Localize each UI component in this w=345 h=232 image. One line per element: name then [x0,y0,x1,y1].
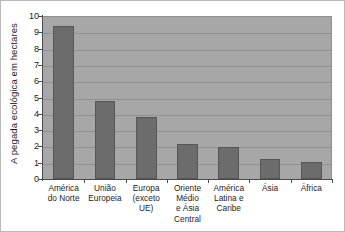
y-axis-tick-labels: 109876543210 [23,11,39,181]
y-axis-tickmark [38,16,42,17]
y-axis-tick-label: 2 [23,142,39,151]
ecological-footprint-bar-chart: A pegada ecológica em hectares 109876543… [0,0,345,232]
x-axis-tickmark [291,180,292,183]
y-axis-tick-label: 6 [23,77,39,86]
y-axis-tick-label: 9 [23,28,39,37]
gridline [43,131,331,132]
y-axis-tickmark [38,32,42,33]
bar [53,26,74,179]
x-axis-category-label: OrienteMédioe ÁsiaCentral [167,183,208,224]
gridline [43,33,331,34]
y-axis-tickmark [38,114,42,115]
y-axis-tickmark [38,179,42,180]
y-axis-tickmark [38,49,42,50]
bar [301,162,322,179]
x-axis-tickmark [167,180,168,183]
gridline [43,82,331,83]
x-axis-tickmark [84,180,85,183]
y-axis-tick-label: 8 [23,44,39,53]
gridline [43,115,331,116]
y-axis-tickmark [38,146,42,147]
x-axis-category-label: Ásia [249,183,290,193]
bar [95,101,116,179]
gridline [43,50,331,51]
plot-area [43,16,332,179]
y-axis-tick-label: 4 [23,109,39,118]
x-axis-tickmark [208,180,209,183]
y-axis-title-text: A pegada ecológica em hectares [8,23,19,164]
bar [136,117,157,179]
x-axis-tickmark [249,180,250,183]
y-axis-tickmark [38,163,42,164]
bar [177,144,198,179]
y-axis-tickmark [38,98,42,99]
y-axis-tick-label: 5 [23,93,39,102]
y-axis-line [42,15,43,181]
x-axis-line [42,179,333,180]
gridline [43,66,331,67]
x-axis-category-labels: Américado NorteUniãoEuropeiaEuropa(excet… [43,183,332,231]
x-axis-tickmark [126,180,127,183]
x-axis-category-label: AméricaLatina eCaribe [208,183,249,214]
y-axis-tick-label: 7 [23,60,39,69]
y-axis-tick-label: 10 [23,12,39,21]
y-axis-tick-label: 1 [23,158,39,167]
y-axis-tick-label: 3 [23,126,39,135]
y-axis-tick-label: 0 [23,175,39,184]
x-axis-tickmark [332,180,333,183]
y-axis-tickmark [38,65,42,66]
gridline [43,99,331,100]
x-axis-category-label: África [291,183,332,193]
bar [218,147,239,179]
x-axis-category-label: UniãoEuropeia [84,183,125,203]
y-axis-tickmark [38,130,42,131]
x-axis-category-label: Américado Norte [43,183,84,203]
y-axis-tickmark [38,81,42,82]
bar [260,159,281,179]
x-axis-category-label: Europa(excetoUE) [126,183,167,214]
y-axis-title: A pegada ecológica em hectares [3,1,23,186]
